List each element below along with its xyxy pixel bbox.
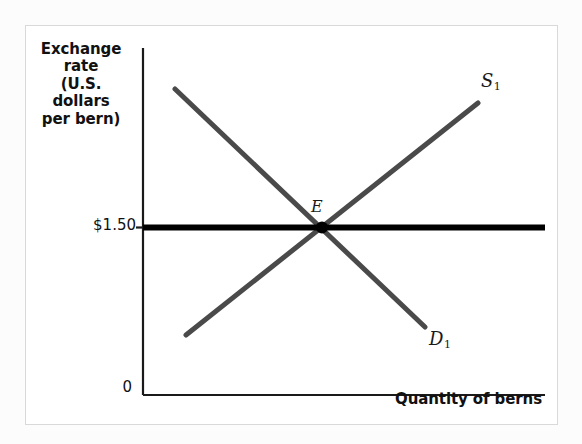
demand-curve bbox=[175, 89, 425, 327]
supply-curve-label: S1 bbox=[481, 70, 500, 91]
figure-root: Exchange rate (U.S. dollars per bern) $1… bbox=[0, 0, 582, 444]
demand-curve-label-subscript: 1 bbox=[444, 338, 451, 351]
price-tick-label: $1.50 bbox=[76, 216, 136, 234]
supply-curve-label-subscript: 1 bbox=[494, 80, 501, 93]
equilibrium-point-label: E bbox=[311, 197, 323, 216]
supply-curve-label-text: S bbox=[481, 70, 493, 91]
equilibrium-point bbox=[316, 222, 328, 234]
y-axis-title: Exchange rate (U.S. dollars per bern) bbox=[26, 41, 136, 128]
demand-curve-label-text: D bbox=[429, 328, 443, 349]
origin-label: 0 bbox=[110, 378, 132, 396]
x-axis-title: Quantity of berns bbox=[330, 390, 542, 408]
demand-curve-label: D1 bbox=[429, 328, 450, 349]
